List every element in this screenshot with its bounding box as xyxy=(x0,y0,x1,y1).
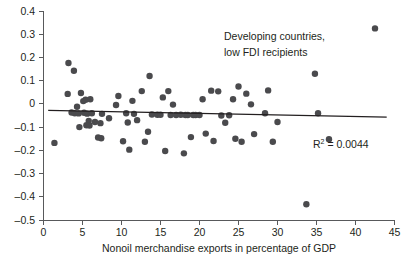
annotation-line-2: low FDI recipients xyxy=(224,46,307,58)
data-point xyxy=(215,88,221,94)
data-point xyxy=(238,139,244,145)
y-tick-group xyxy=(39,11,44,220)
data-point xyxy=(165,88,171,94)
y-tick-label: –0.3 xyxy=(15,167,36,179)
data-point xyxy=(65,60,71,66)
x-axis-title: Nonoil merchandise exports in percentage… xyxy=(102,242,336,254)
y-tick-label: 0.1 xyxy=(20,74,35,86)
data-point xyxy=(51,140,57,146)
data-point xyxy=(230,96,236,102)
x-tick-label: 45 xyxy=(389,226,401,238)
x-tick-label: 5 xyxy=(80,226,86,238)
y-tick-label-group: 0.40.30.20.10–0.1–0.2–0.3–0.4–0.5 xyxy=(15,5,36,226)
x-tick-label: 35 xyxy=(311,226,323,238)
data-point xyxy=(162,148,168,154)
annotation-line-1: Developing countries, xyxy=(224,30,325,42)
scatter-chart: 0.40.30.20.10–0.1–0.2–0.3–0.4–0.5 051015… xyxy=(0,0,408,260)
chart-canvas: 0.40.30.20.10–0.1–0.2–0.3–0.4–0.5 051015… xyxy=(0,0,408,260)
data-point xyxy=(125,119,131,125)
data-point xyxy=(71,67,77,73)
y-tick-label: 0 xyxy=(29,97,35,109)
x-tick-label: 0 xyxy=(41,226,47,238)
x-axis: 051015202530354045 xyxy=(41,221,401,239)
data-point xyxy=(97,120,103,126)
data-point xyxy=(106,115,112,121)
y-tick-label: 0.3 xyxy=(20,28,35,40)
x-tick-label: 40 xyxy=(350,226,362,238)
data-point xyxy=(98,135,104,141)
data-point xyxy=(235,83,241,89)
data-point xyxy=(248,101,254,107)
x-tick-group xyxy=(44,221,395,226)
data-point xyxy=(199,96,205,102)
data-point xyxy=(226,112,232,118)
data-point xyxy=(115,93,121,99)
data-point xyxy=(139,88,145,94)
data-point xyxy=(113,102,119,108)
y-tick-label: –0.5 xyxy=(15,214,36,226)
data-point xyxy=(74,103,80,109)
data-point xyxy=(86,122,92,128)
data-point xyxy=(232,136,238,142)
data-point xyxy=(210,138,216,144)
y-tick-label: 0.2 xyxy=(20,51,35,63)
y-axis: 0.40.30.20.10–0.1–0.2–0.3–0.4–0.5 xyxy=(15,5,44,226)
data-point xyxy=(181,150,187,156)
data-point xyxy=(208,87,214,93)
data-point xyxy=(126,146,132,152)
r-squared-label: R2 = 0.0044 xyxy=(313,138,369,150)
data-point xyxy=(146,73,152,79)
data-point xyxy=(76,124,82,130)
data-point xyxy=(243,90,249,96)
data-point xyxy=(134,117,140,123)
data-point xyxy=(92,119,98,125)
data-point xyxy=(312,71,318,77)
data-point xyxy=(203,130,209,136)
data-point xyxy=(372,25,378,31)
data-point xyxy=(188,134,194,140)
data-point xyxy=(123,110,129,116)
x-tick-label: 30 xyxy=(272,226,284,238)
y-tick-label: –0.2 xyxy=(15,144,36,156)
x-tick-label: 25 xyxy=(233,226,245,238)
r-squared-value: = 0.0044 xyxy=(325,138,369,150)
data-point xyxy=(142,139,148,145)
data-point xyxy=(265,87,271,93)
y-tick-label: –0.1 xyxy=(15,121,36,133)
data-point xyxy=(170,101,176,107)
x-tick-label: 20 xyxy=(194,226,206,238)
data-point xyxy=(87,96,93,102)
y-tick-label: 0.4 xyxy=(20,5,35,17)
data-point xyxy=(160,94,166,100)
data-point xyxy=(274,119,280,125)
data-point xyxy=(145,129,151,135)
x-tick-label-group: 051015202530354045 xyxy=(41,226,401,238)
data-point xyxy=(64,91,70,97)
data-point xyxy=(120,138,126,144)
data-point xyxy=(251,131,257,137)
data-point xyxy=(129,98,135,104)
x-tick-label: 10 xyxy=(116,226,128,238)
data-point xyxy=(222,119,228,125)
y-tick-label: –0.4 xyxy=(15,190,36,202)
data-point xyxy=(303,201,309,207)
data-point xyxy=(78,90,84,96)
x-tick-label: 15 xyxy=(155,226,167,238)
data-point xyxy=(270,139,276,145)
